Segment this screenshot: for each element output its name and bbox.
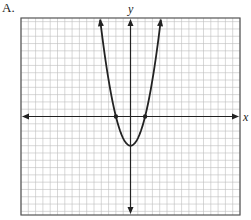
intercept-point [114,114,118,118]
x-axis-right-arrow-icon [232,114,239,120]
parabola-graph: x y [0,0,251,220]
y-axis-up-arrow-icon [128,19,134,26]
x-axis-left-arrow-icon [22,114,29,120]
x-axis-label: x [242,110,249,124]
y-axis-down-arrow-icon [128,207,134,214]
y-axis-label: y [127,2,134,16]
axes [22,19,239,214]
curve-arrow-icon [157,18,163,26]
intercept-point [143,114,147,118]
curve-arrow-icon [98,18,104,26]
